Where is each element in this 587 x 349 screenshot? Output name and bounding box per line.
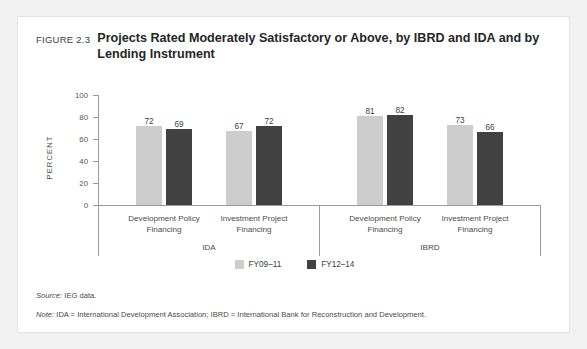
bar-ibrd-ipf-fy09-11[interactable]	[447, 125, 473, 205]
y-axis-title: PERCENT	[45, 113, 54, 203]
figure-title: Projects Rated Moderately Satisfactory o…	[97, 31, 549, 62]
category-line-2: Financing	[190, 224, 318, 235]
bar-value-ida-ipf-fy12-14: 72	[249, 117, 289, 126]
bar-ida-ipf-fy09-11[interactable]	[226, 131, 252, 205]
y-tick-label-40: 40	[64, 157, 88, 166]
category-label-ibrd-ipf: Investment Project Financing	[411, 213, 539, 235]
category-label-ida-ipf: Investment Project Financing	[190, 213, 318, 235]
chart-plot-area: PERCENT 100 80 60 40 20 0 72 69 67 72 81	[18, 75, 571, 275]
legend-label-fy09-11: FY09–11	[249, 260, 282, 269]
general-note-lead: Note:	[36, 310, 54, 319]
bar-ibrd-dpf-fy09-11[interactable]	[357, 116, 383, 205]
bar-value-ibrd-dpf-fy12-14: 82	[380, 106, 420, 115]
y-axis-line	[98, 95, 99, 205]
legend-swatch-icon-fy09-11	[235, 260, 244, 269]
legend-item-fy12-14[interactable]: FY12–14	[307, 260, 354, 269]
category-line-2: Financing	[411, 224, 539, 235]
bar-value-ida-dpf-fy12-14: 69	[159, 120, 199, 129]
y-tick-80	[93, 117, 98, 118]
figure-card: FIGURE 2.3 Projects Rated Moderately Sat…	[17, 16, 570, 333]
y-tick-label-20: 20	[64, 179, 88, 188]
category-line-1: Investment Project	[190, 213, 318, 224]
y-tick-label-80: 80	[64, 113, 88, 122]
y-tick-20	[93, 183, 98, 184]
general-note-text: IDA = International Development Associat…	[54, 310, 426, 319]
general-note: Note: IDA = International Development As…	[36, 310, 426, 319]
bar-ida-ipf-fy12-14[interactable]	[256, 126, 282, 205]
group-divider-left	[98, 205, 99, 256]
y-tick-40	[93, 161, 98, 162]
group-label-ibrd: IBRD	[330, 243, 530, 252]
bar-ibrd-ipf-fy12-14[interactable]	[477, 132, 503, 205]
figure-number: FIGURE 2.3	[36, 31, 90, 45]
y-tick-label-100: 100	[64, 91, 88, 100]
bar-ida-dpf-fy12-14[interactable]	[166, 129, 192, 205]
group-divider-right	[540, 205, 541, 256]
bar-ibrd-dpf-fy12-14[interactable]	[387, 115, 413, 205]
legend-item-fy09-11[interactable]: FY09–11	[235, 260, 282, 269]
source-note-text: IEG data.	[62, 291, 96, 300]
category-line-1: Investment Project	[411, 213, 539, 224]
figure-header: FIGURE 2.3 Projects Rated Moderately Sat…	[36, 31, 553, 62]
legend-label-fy12-14: FY12–14	[321, 260, 354, 269]
group-label-ida: IDA	[109, 243, 309, 252]
source-note: Source: IEG data.	[36, 291, 96, 300]
source-note-lead: Source:	[36, 291, 62, 300]
y-tick-label-60: 60	[64, 135, 88, 144]
chart-legend: FY09–11 FY12–14	[18, 260, 571, 269]
y-tick-100	[93, 95, 98, 96]
y-tick-label-0: 0	[64, 201, 88, 210]
bar-value-ibrd-ipf-fy12-14: 66	[470, 123, 510, 132]
bar-ida-dpf-fy09-11[interactable]	[136, 126, 162, 205]
legend-swatch-icon-fy12-14	[307, 260, 316, 269]
y-tick-60	[93, 139, 98, 140]
group-divider-middle	[319, 205, 320, 256]
